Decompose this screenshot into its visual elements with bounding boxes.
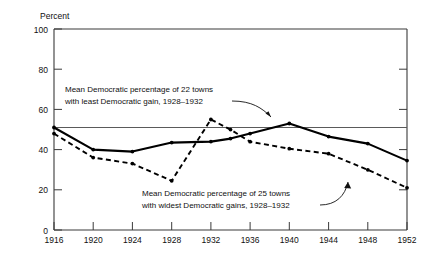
- y-tick-label-60: 60: [39, 105, 49, 115]
- x-tick-label-1920: 1920: [84, 235, 103, 245]
- y-tick-label-40: 40: [39, 145, 49, 155]
- annotation-lower-line1: Mean Democratic percentage of 25 towns: [142, 189, 290, 198]
- x-tick-label-1916: 1916: [45, 235, 64, 245]
- annotation-upper-line1: Mean Democratic percentage of 22 towns: [65, 85, 213, 94]
- y-tick-label-80: 80: [39, 65, 49, 75]
- annotation-lower-arrow: [320, 182, 348, 205]
- y-axis-title: Percent: [40, 11, 70, 21]
- x-tick-label-1928: 1928: [162, 235, 181, 245]
- x-tick-label-1932: 1932: [201, 235, 220, 245]
- y-tick-label-0: 0: [43, 226, 48, 236]
- series-widest-gains: [52, 118, 409, 190]
- x-tick-label-1948: 1948: [358, 235, 377, 245]
- x-tick-label-1940: 1940: [280, 235, 299, 245]
- line-chart: Percent 100 80 60 40 20 0: [0, 0, 429, 257]
- x-tick-label-1952: 1952: [398, 235, 417, 245]
- annotation-upper-arrow: [232, 101, 271, 117]
- annotation-lower: Mean Democratic percentage of 25 towns w…: [141, 182, 351, 210]
- x-tick-label-1924: 1924: [123, 235, 142, 245]
- y-tick-label-100: 100: [34, 25, 48, 35]
- annotation-upper-line2: with least Democratic gain, 1928–1932: [64, 97, 203, 106]
- annotation-lower-line2: with widest Democratic gains, 1928–1932: [141, 201, 290, 210]
- x-tick-label-1936: 1936: [241, 235, 260, 245]
- annotation-upper: Mean Democratic percentage of 22 towns w…: [64, 85, 271, 117]
- chart-figure: Percent 100 80 60 40 20 0: [0, 0, 429, 257]
- y-tick-label-20: 20: [39, 185, 49, 195]
- x-tick-label-1944: 1944: [319, 235, 338, 245]
- x-axis-ticks: [54, 222, 407, 230]
